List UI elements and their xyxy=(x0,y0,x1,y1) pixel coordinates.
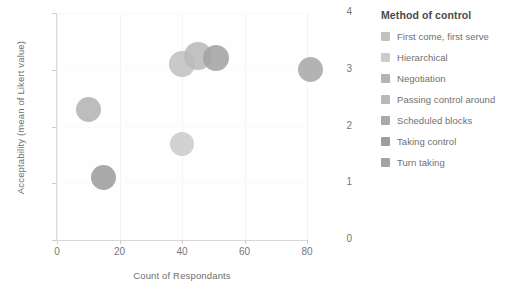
y-tick-mark xyxy=(52,70,56,71)
x-tick-label: 60 xyxy=(230,246,260,257)
legend-item-label: Taking control xyxy=(397,136,456,147)
legend-item[interactable]: Passing control around xyxy=(381,89,509,110)
gridline-vertical xyxy=(307,13,308,240)
y-tick-label: 3 xyxy=(330,63,352,74)
data-point-bubble[interactable] xyxy=(170,132,194,156)
x-tick-mark xyxy=(245,240,246,244)
legend-item-label: Scheduled blocks xyxy=(397,115,472,126)
x-tick-mark xyxy=(307,240,308,244)
plot-region: Acceptability (mean of Likert value) 012… xyxy=(0,0,352,290)
legend-item[interactable]: Turn taking xyxy=(381,152,509,173)
legend-item[interactable]: Taking control xyxy=(381,131,509,152)
legend-item-list: First come, first serveHierarchicalNegot… xyxy=(381,26,509,173)
y-tick-mark xyxy=(52,13,56,14)
x-tick-mark xyxy=(120,240,121,244)
y-tick-label: 0 xyxy=(330,233,352,244)
y-tick-label: 4 xyxy=(330,6,352,17)
x-tick-label: 20 xyxy=(105,246,135,257)
y-tick-label: 2 xyxy=(330,120,352,131)
legend-swatch-icon xyxy=(381,95,390,104)
legend-item-label: Passing control around xyxy=(397,94,495,105)
legend-item-label: First come, first serve xyxy=(397,31,489,42)
legend-item[interactable]: Scheduled blocks xyxy=(381,110,509,131)
legend-item-label: Hierarchical xyxy=(397,52,448,63)
gridline-horizontal xyxy=(57,127,307,128)
legend-item[interactable]: Hierarchical xyxy=(381,47,509,68)
y-tick-mark xyxy=(52,127,56,128)
x-tick-mark xyxy=(57,240,58,244)
plot-area xyxy=(57,13,307,240)
y-tick-label: 1 xyxy=(330,176,352,187)
x-tick-mark xyxy=(182,240,183,244)
y-axis-title: Acceptability (mean of Likert value) xyxy=(15,3,26,233)
data-point-bubble[interactable] xyxy=(298,57,323,82)
legend-item[interactable]: Negotiation xyxy=(381,68,509,89)
x-tick-label: 80 xyxy=(292,246,322,257)
legend: Method of control First come, first serv… xyxy=(381,9,509,173)
legend-title: Method of control xyxy=(381,9,509,21)
x-tick-label: 40 xyxy=(167,246,197,257)
data-point-bubble[interactable] xyxy=(76,97,101,122)
legend-item-label: Turn taking xyxy=(397,157,445,168)
y-tick-mark xyxy=(52,183,56,184)
gridline-horizontal xyxy=(57,13,307,14)
bubble-chart-figure: Acceptability (mean of Likert value) 012… xyxy=(0,0,509,290)
legend-swatch-icon xyxy=(381,137,390,146)
y-tick-mark xyxy=(52,240,56,241)
legend-swatch-icon xyxy=(381,158,390,167)
legend-item[interactable]: First come, first serve xyxy=(381,26,509,47)
legend-item-label: Negotiation xyxy=(397,73,446,84)
y-axis-line xyxy=(56,13,57,241)
x-axis-title: Count of Respondants xyxy=(57,270,307,281)
x-tick-label: 0 xyxy=(42,246,72,257)
legend-swatch-icon xyxy=(381,32,390,41)
legend-swatch-icon xyxy=(381,74,390,83)
legend-swatch-icon xyxy=(381,53,390,62)
legend-swatch-icon xyxy=(381,116,390,125)
